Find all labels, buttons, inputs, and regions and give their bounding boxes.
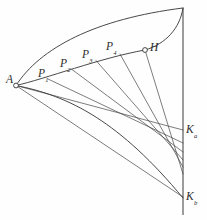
label-p2-base: P (60, 57, 67, 69)
point-path-curve (16, 50, 145, 86)
label-p2-subscript: 2 (67, 66, 70, 73)
label-point-p4: P4 (106, 41, 116, 55)
ray-from-a-6 (16, 86, 183, 198)
label-p4-subscript: 4 (113, 49, 116, 56)
ray-from-h-5 (145, 50, 183, 174)
label-point-ka: Ka (186, 124, 197, 138)
label-point-kb: Kb (186, 191, 197, 205)
label-point-a: A (6, 74, 13, 86)
geometry-diagram (0, 0, 207, 220)
figure-canvas: A P1 P2 P3 P4 H Ka Kb (0, 0, 207, 220)
node-marker-a (14, 83, 19, 88)
label-ka-subscript: a (194, 132, 197, 139)
label-p1-subscript: 1 (45, 76, 48, 83)
label-point-h: H (150, 42, 158, 54)
label-p4-base: P (106, 40, 113, 52)
label-p1-base: P (38, 67, 45, 79)
label-kb-base: K (186, 190, 194, 202)
label-p3-subscript: 3 (89, 57, 92, 64)
label-ka-base: K (186, 123, 194, 135)
node-marker-h (143, 48, 148, 53)
ray-from-p1-1 (48, 79, 183, 143)
ray-from-p2-2 (72, 70, 183, 153)
label-point-p3: P3 (82, 49, 92, 63)
label-point-p1: P1 (38, 68, 48, 82)
label-p3-base: P (82, 48, 89, 60)
label-kb-subscript: b (194, 199, 197, 206)
label-point-p2: P2 (60, 58, 70, 72)
